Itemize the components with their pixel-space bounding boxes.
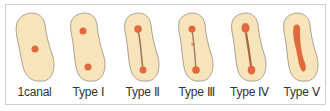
canal-dot-icon [140, 67, 147, 74]
tooth-cross-section-icon [62, 11, 115, 85]
panel-type-5: Type Ⅴ [275, 5, 328, 106]
canal-dot-icon [192, 66, 200, 74]
canal-dot-icon [242, 23, 250, 33]
type-label: Type Ⅳ [223, 85, 276, 99]
tooth-cross-section-icon [8, 11, 61, 85]
type-label: Type Ⅰ [62, 85, 115, 99]
canal-dot-icon [248, 66, 256, 75]
tooth-cross-section-icon [275, 11, 328, 85]
canal-dot-icon [80, 28, 87, 35]
panel-type-3: Type Ⅲ [170, 5, 223, 106]
canal-dot-icon [85, 64, 92, 71]
panel-type-2: Type Ⅱ [116, 5, 169, 106]
isthmus-node-icon [192, 43, 196, 46]
panel-type-1: Type Ⅰ [62, 5, 115, 106]
diagram-frame: 1canal Type Ⅰ Type Ⅱ Type Ⅲ [5, 4, 326, 105]
tooth-cross-section-icon [170, 11, 223, 85]
type-label: Type Ⅲ [170, 85, 223, 99]
canal-dot-icon [189, 26, 196, 33]
type-label: Type Ⅱ [116, 85, 169, 99]
tooth-cross-section-icon [116, 11, 169, 85]
tooth-cross-section-icon [223, 11, 276, 85]
canal-dot-icon [32, 46, 39, 53]
canal-dot-icon [134, 25, 142, 33]
panel-1canal: 1canal [8, 5, 61, 106]
type-label: Type Ⅴ [275, 85, 328, 99]
type-label: 1canal [8, 85, 61, 99]
panel-type-4: Type Ⅳ [223, 5, 276, 106]
